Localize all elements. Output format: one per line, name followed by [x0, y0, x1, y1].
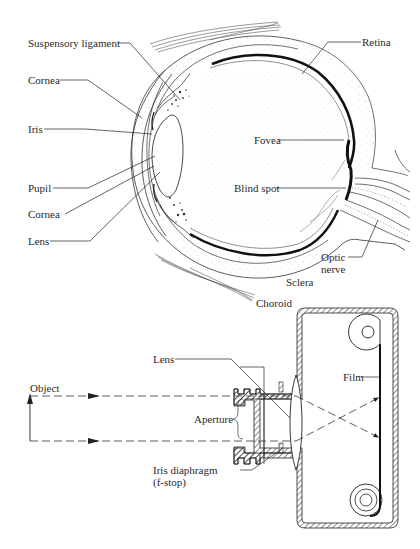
- label-optic-nerve-line2: nerve: [321, 263, 345, 275]
- label-pupil: Pupil: [28, 182, 51, 194]
- label-lens: Lens: [28, 235, 49, 247]
- fovea-pit: [346, 140, 351, 200]
- iris-blade-bottom: [279, 443, 283, 453]
- label-iris-diaphragm-line2: (f-stop): [153, 476, 217, 488]
- label-camera-lens: Lens: [153, 353, 174, 365]
- label-blind-spot: Blind spot: [234, 182, 280, 194]
- film-spool-bottom: [350, 484, 382, 516]
- label-iris: Iris: [28, 123, 43, 135]
- label-object: Object: [30, 382, 59, 394]
- label-iris-diaphragm: Iris diaphragm (f-stop): [153, 464, 217, 488]
- eye-illustration: [44, 22, 410, 301]
- label-suspensory-ligament: Suspensory ligament: [28, 37, 120, 49]
- label-cornea-bottom: Cornea: [28, 208, 60, 220]
- lens-barrel-top: [234, 389, 297, 406]
- label-film: Film: [343, 371, 364, 383]
- camera-body-shell: [234, 308, 398, 528]
- label-cornea-top: Cornea: [28, 74, 60, 86]
- leader-camera-lens: [175, 359, 290, 418]
- iris-blade-top: [279, 382, 283, 392]
- ray-arrowheads: [88, 393, 100, 444]
- label-sclera: Sclera: [286, 276, 313, 288]
- label-iris-diaphragm-line1: Iris diaphragm: [153, 464, 217, 476]
- label-choroid: Choroid: [256, 297, 292, 309]
- label-fovea: Fovea: [254, 134, 281, 146]
- label-aperture: Aperture: [194, 413, 233, 425]
- leader-cornea-top: [60, 80, 142, 118]
- film-spool-top: [349, 314, 380, 350]
- label-retina: Retina: [362, 36, 391, 48]
- lens-shape: [152, 115, 183, 197]
- label-optic-nerve-line1: Optic: [321, 251, 345, 263]
- label-optic-nerve: Optic nerve: [321, 251, 345, 275]
